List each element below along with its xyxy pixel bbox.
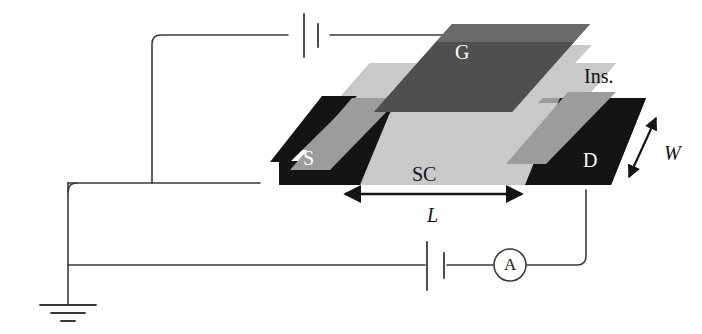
semiconductor-label: SC <box>412 164 436 184</box>
wire-ammeter-to-drain <box>527 190 586 265</box>
drain-bias-battery[interactable] <box>427 242 444 290</box>
drain-label: D <box>583 150 597 170</box>
gate-bias-battery[interactable] <box>304 14 318 57</box>
gate-top-facet <box>436 24 590 42</box>
figure-canvas: G S D SC Ins. L W A <box>0 0 702 334</box>
channel-length-label: L <box>427 205 438 225</box>
ammeter-label: A <box>504 256 516 273</box>
channel-width-label: W <box>664 143 681 163</box>
source-label: S <box>303 148 314 168</box>
wire-source-left-corner <box>68 183 77 192</box>
ground-symbol <box>40 305 96 321</box>
insulator-label: Ins. <box>584 66 613 86</box>
gate-label: G <box>455 42 469 62</box>
wire-gate-branch <box>152 35 288 183</box>
